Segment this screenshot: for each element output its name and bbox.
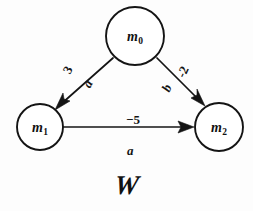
node-m2-subscript: 2 — [222, 126, 227, 136]
node-m2-label: m2 — [211, 120, 227, 137]
figure-caption: W — [113, 170, 141, 201]
node-m1-label: m1 — [32, 120, 48, 137]
node-m0-subscript: 0 — [138, 35, 143, 45]
figure-canvas: m0 m1 m2 3 a -2 b −5 a W — [0, 0, 253, 211]
edge-m1-m2-weight: −5 — [126, 112, 140, 128]
node-m1-subscript: 1 — [43, 126, 48, 136]
edge-m0-m1-arrowhead — [55, 93, 70, 110]
edge-m1-m2-symbol: a — [127, 143, 134, 159]
node-m1-base: m — [32, 120, 43, 135]
node-m2-base: m — [211, 120, 222, 135]
node-m0-base: m — [127, 29, 138, 44]
node-m0-label: m0 — [127, 29, 143, 46]
edge-m0-m2-arrowhead — [191, 89, 205, 106]
